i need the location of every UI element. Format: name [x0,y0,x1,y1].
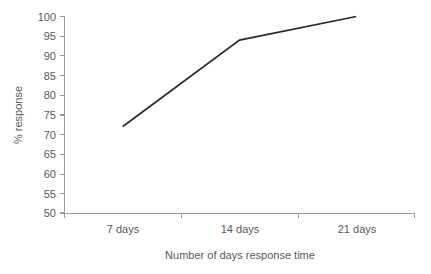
x-axis-tick-labels: 7 days 14 days 21 days [107,223,377,235]
line-chart: 100 95 90 85 80 75 70 65 60 55 50 7 days… [0,0,431,274]
y-tick-label-60: 60 [44,168,56,180]
y-tick-label-55: 55 [44,188,56,200]
y-axis-title: % response [12,86,24,144]
x-tick-label-14-days: 14 days [221,223,260,235]
y-tick-label-70: 70 [44,129,56,141]
x-tick-label-21-days: 21 days [338,223,377,235]
y-tick-label-90: 90 [44,50,56,62]
y-tick-label-85: 85 [44,70,56,82]
y-axis-ticks [60,17,65,214]
y-tick-label-100: 100 [38,11,56,23]
y-tick-label-65: 65 [44,148,56,160]
x-axis-ticks [65,214,415,219]
y-axis-tick-labels: 100 95 90 85 80 75 70 65 60 55 50 [38,11,56,220]
y-tick-label-50: 50 [44,207,56,219]
series-line-percent-response [123,17,356,127]
x-axis-title: Number of days response time [165,249,315,261]
y-tick-label-95: 95 [44,30,56,42]
y-tick-label-75: 75 [44,109,56,121]
y-tick-label-80: 80 [44,89,56,101]
x-tick-label-7-days: 7 days [107,223,140,235]
chart-canvas: 100 95 90 85 80 75 70 65 60 55 50 7 days… [0,0,431,274]
